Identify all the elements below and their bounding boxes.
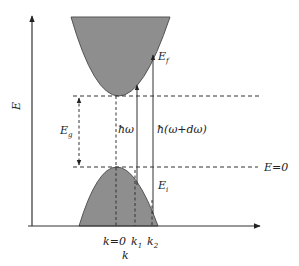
initial-state-label: Ei [157, 179, 168, 194]
band-gap-label: Eg [59, 124, 73, 139]
band-diagram: E Eg ħω ħ(ω+dω) Ef Ei E=0 k=0 k1 k2 k [0, 0, 299, 266]
zero-level-label: E=0 [263, 161, 288, 174]
tick-k1-label: k1 [131, 235, 142, 250]
x-axis-label: k [122, 249, 129, 262]
conduction-band [71, 17, 170, 96]
tick-k0-label: k=0 [103, 235, 126, 248]
y-axis-label: E [10, 102, 23, 111]
tick-k2-label: k2 [147, 235, 159, 250]
photon-energy-label: ħω [118, 123, 134, 136]
photon-energy-plus-label: ħ(ω+dω) [157, 123, 207, 136]
final-state-label: Ef [157, 50, 170, 65]
valence-band [79, 167, 158, 226]
